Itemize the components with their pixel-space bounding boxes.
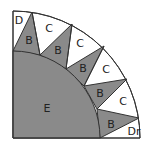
label-c-3: C xyxy=(102,63,110,76)
label-c-2: C xyxy=(76,37,84,50)
label-b-2: B xyxy=(54,44,62,57)
label-e: E xyxy=(44,102,51,115)
label-dr: Dr xyxy=(128,125,141,138)
label-c-4: C xyxy=(119,95,127,108)
label-b-1: B xyxy=(25,34,33,47)
label-b-5: B xyxy=(107,118,115,131)
quilt-block-diagram: D B C B C B C B C B E Dr xyxy=(0,0,149,149)
label-b-3: B xyxy=(79,62,87,75)
label-b-4: B xyxy=(96,87,104,100)
label-c-1: C xyxy=(45,22,53,35)
label-d: D xyxy=(15,14,23,27)
